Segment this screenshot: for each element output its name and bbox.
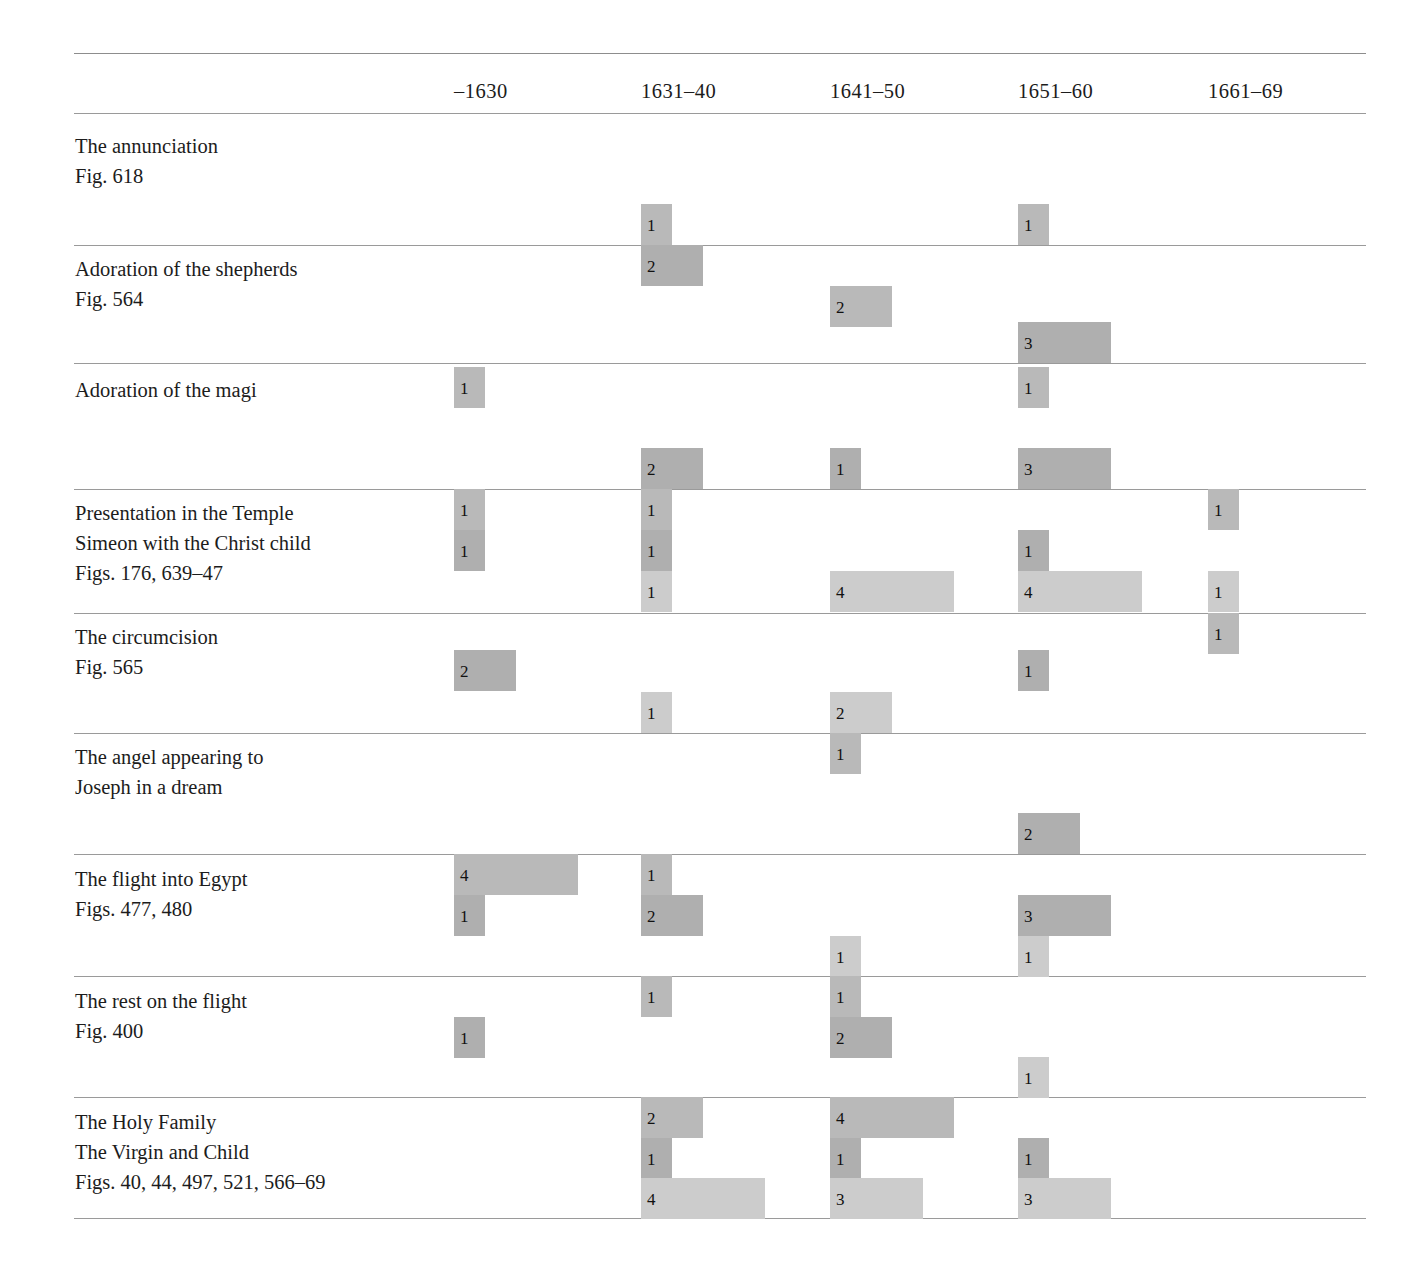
value-bar: 1 bbox=[641, 854, 672, 895]
horizontal-rule bbox=[74, 733, 1366, 734]
value-bar: 1 bbox=[641, 1138, 672, 1179]
horizontal-rule bbox=[74, 489, 1366, 490]
row-label-line: The annunciation bbox=[75, 131, 218, 161]
horizontal-rule bbox=[74, 854, 1366, 855]
bar-value-label: 1 bbox=[647, 583, 656, 600]
bar-value-label: 1 bbox=[836, 460, 845, 477]
value-bar: 2 bbox=[830, 286, 892, 327]
bar-value-label: 3 bbox=[1024, 460, 1033, 477]
value-bar: 3 bbox=[1018, 448, 1111, 489]
value-bar: 2 bbox=[641, 448, 703, 489]
bar-value-label: 1 bbox=[1024, 1069, 1033, 1086]
horizontal-rule bbox=[74, 245, 1366, 246]
row-label: The Holy FamilyThe Virgin and ChildFigs.… bbox=[75, 1107, 326, 1197]
value-bar: 1 bbox=[1018, 936, 1049, 977]
value-bar: 1 bbox=[1018, 204, 1049, 245]
row-label-line: Adoration of the magi bbox=[75, 375, 257, 405]
bar-value-label: 1 bbox=[1024, 662, 1033, 679]
column-header-3: 1641–50 bbox=[830, 80, 905, 103]
value-bar: 3 bbox=[1018, 1178, 1111, 1219]
value-bar: 1 bbox=[1208, 489, 1239, 530]
value-bar: 4 bbox=[1018, 571, 1142, 612]
row-label-line: Joseph in a dream bbox=[75, 772, 263, 802]
value-bar: 1 bbox=[454, 530, 485, 571]
value-bar: 2 bbox=[830, 692, 892, 733]
row-label: The rest on the flightFig. 400 bbox=[75, 986, 247, 1046]
column-header-4: 1651–60 bbox=[1018, 80, 1093, 103]
row-label-line: Figs. 40, 44, 497, 521, 566–69 bbox=[75, 1167, 326, 1197]
bar-value-label: 1 bbox=[1214, 583, 1223, 600]
row-label-line: The Holy Family bbox=[75, 1107, 326, 1137]
value-bar: 2 bbox=[830, 1017, 892, 1058]
horizontal-rule bbox=[74, 113, 1366, 114]
table-sheet: –16301631–401641–501651–601661–69 112231… bbox=[0, 0, 1415, 1280]
value-bar: 1 bbox=[1018, 1138, 1049, 1179]
row-label-line: The Virgin and Child bbox=[75, 1137, 326, 1167]
bar-value-label: 3 bbox=[1024, 907, 1033, 924]
bar-value-label: 1 bbox=[836, 988, 845, 1005]
bar-value-label: 1 bbox=[836, 1150, 845, 1167]
bar-value-label: 1 bbox=[460, 907, 469, 924]
bar-value-label: 2 bbox=[836, 704, 845, 721]
bar-value-label: 2 bbox=[836, 1029, 845, 1046]
row-label-line: Fig. 565 bbox=[75, 652, 218, 682]
value-bar: 1 bbox=[641, 692, 672, 733]
value-bar: 1 bbox=[454, 367, 485, 408]
row-label-line: Figs. 477, 480 bbox=[75, 894, 248, 924]
value-bar: 2 bbox=[1018, 813, 1080, 854]
bar-value-label: 2 bbox=[460, 662, 469, 679]
column-header-1: –1630 bbox=[454, 80, 508, 103]
row-label: Adoration of the magi bbox=[75, 375, 257, 405]
bar-value-label: 1 bbox=[460, 501, 469, 518]
column-header-5: 1661–69 bbox=[1208, 80, 1283, 103]
row-label-line: Fig. 400 bbox=[75, 1016, 247, 1046]
row-label-line: Simeon with the Christ child bbox=[75, 528, 311, 558]
value-bar: 2 bbox=[641, 245, 703, 286]
row-label: The angel appearing toJoseph in a dream bbox=[75, 742, 263, 802]
bar-value-label: 3 bbox=[1024, 1190, 1033, 1207]
row-label-line: Adoration of the shepherds bbox=[75, 254, 298, 284]
value-bar: 1 bbox=[641, 976, 672, 1017]
bar-value-label: 4 bbox=[1024, 583, 1033, 600]
bar-value-label: 2 bbox=[647, 257, 656, 274]
value-bar: 2 bbox=[641, 1097, 703, 1138]
bar-value-label: 1 bbox=[1024, 1150, 1033, 1167]
bar-value-label: 1 bbox=[1024, 216, 1033, 233]
bar-value-label: 1 bbox=[647, 216, 656, 233]
bar-value-label: 2 bbox=[836, 298, 845, 315]
bar-value-label: 4 bbox=[836, 583, 845, 600]
bar-value-label: 4 bbox=[836, 1109, 845, 1126]
horizontal-rule bbox=[74, 613, 1366, 614]
bar-value-label: 3 bbox=[836, 1190, 845, 1207]
value-bar: 3 bbox=[1018, 895, 1111, 936]
bar-value-label: 3 bbox=[1024, 334, 1033, 351]
bar-value-label: 1 bbox=[460, 1029, 469, 1046]
bar-value-label: 4 bbox=[647, 1190, 656, 1207]
row-label-line: The circumcision bbox=[75, 622, 218, 652]
value-bar: 4 bbox=[830, 571, 954, 612]
bar-value-label: 1 bbox=[647, 704, 656, 721]
value-bar: 2 bbox=[641, 895, 703, 936]
value-bar: 4 bbox=[454, 854, 578, 895]
value-bar: 3 bbox=[1018, 322, 1111, 363]
bar-value-label: 4 bbox=[460, 866, 469, 883]
value-bar: 1 bbox=[641, 489, 672, 530]
value-bar: 1 bbox=[830, 976, 861, 1017]
bar-value-label: 1 bbox=[647, 1150, 656, 1167]
bar-value-label: 1 bbox=[460, 542, 469, 559]
bar-value-label: 1 bbox=[647, 988, 656, 1005]
bar-value-label: 1 bbox=[1214, 501, 1223, 518]
row-label-line: The flight into Egypt bbox=[75, 864, 248, 894]
value-bar: 1 bbox=[830, 448, 861, 489]
column-header-2: 1631–40 bbox=[641, 80, 716, 103]
row-label: Adoration of the shepherdsFig. 564 bbox=[75, 254, 298, 314]
value-bar: 1 bbox=[830, 936, 861, 977]
value-bar: 1 bbox=[1208, 571, 1239, 612]
row-label-line: Figs. 176, 639–47 bbox=[75, 558, 311, 588]
row-label-line: Presentation in the Temple bbox=[75, 498, 311, 528]
horizontal-rule bbox=[74, 53, 1366, 54]
row-label: The flight into EgyptFigs. 477, 480 bbox=[75, 864, 248, 924]
bar-value-label: 2 bbox=[647, 460, 656, 477]
bar-value-label: 1 bbox=[836, 745, 845, 762]
bar-value-label: 2 bbox=[1024, 825, 1033, 842]
